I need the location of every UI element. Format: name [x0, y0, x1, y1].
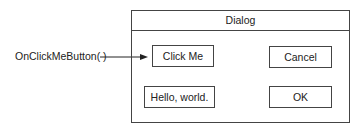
dialog-title: Dialog [132, 11, 349, 31]
handler-label: OnClickMeButton( ) [15, 50, 107, 62]
hello-world-static-text: Hello, world. [144, 86, 215, 108]
ok-button[interactable]: OK [269, 86, 332, 108]
cancel-button[interactable]: Cancel [269, 46, 332, 68]
click-me-button[interactable]: Click Me [152, 45, 214, 67]
dialog-window: Dialog Click Me Cancel Hello, world. OK [131, 10, 350, 123]
